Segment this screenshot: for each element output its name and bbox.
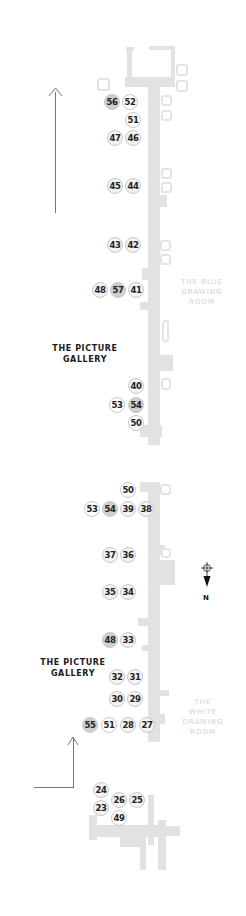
room-label-line: ROOM — [173, 727, 233, 737]
room-label-picture-gallery: THE PICTURE GALLERY — [28, 657, 118, 679]
artwork-pin[interactable]: 54 — [128, 397, 144, 413]
compass-label: N — [203, 594, 209, 602]
artwork-pin[interactable]: 24 — [93, 782, 109, 798]
room-label-line: GALLERY — [40, 354, 130, 365]
artwork-pin[interactable]: 53 — [84, 501, 100, 517]
artwork-pin[interactable]: 46 — [125, 130, 141, 146]
artwork-pin[interactable]: 41 — [128, 282, 144, 298]
room-label-line: DRAWING — [172, 287, 232, 297]
window-icon — [160, 254, 171, 265]
room-label-line: WHITE — [173, 707, 233, 717]
main-wall-top — [148, 85, 160, 445]
artwork-pin[interactable]: 40 — [128, 378, 144, 394]
artwork-pin[interactable]: 54 — [102, 501, 118, 517]
artwork-pin[interactable]: 30 — [109, 691, 125, 707]
wall — [148, 795, 154, 845]
main-wall-bottom — [148, 482, 160, 742]
room-label-line: THE — [173, 697, 233, 707]
artwork-pin[interactable]: 25 — [129, 792, 145, 808]
window-icon — [176, 80, 188, 92]
artwork-pin[interactable]: 55 — [82, 717, 98, 733]
window-icon — [161, 168, 172, 179]
artwork-pin[interactable]: 52 — [122, 94, 138, 110]
room-label-line: ROOM — [172, 297, 232, 307]
artwork-pin[interactable]: 56 — [104, 94, 120, 110]
room-label-line: THE PICTURE — [28, 657, 118, 668]
wall — [155, 714, 165, 724]
artwork-pin[interactable]: 36 — [120, 547, 136, 563]
wall — [155, 560, 175, 585]
artwork-pin[interactable]: 51 — [101, 717, 117, 733]
artwork-pin[interactable]: 47 — [107, 130, 123, 146]
north-arrow-icon — [200, 562, 214, 596]
wall — [158, 826, 180, 836]
artwork-pin[interactable]: 42 — [125, 237, 141, 253]
artwork-pin[interactable]: 43 — [107, 237, 123, 253]
wall — [138, 618, 152, 626]
room-label-line: DRAWING — [173, 717, 233, 727]
artwork-pin[interactable]: 29 — [127, 691, 143, 707]
artwork-pin[interactable]: 23 — [93, 800, 109, 816]
window-icon — [176, 64, 188, 76]
artwork-pin[interactable]: 37 — [102, 547, 118, 563]
artwork-pin[interactable]: 51 — [125, 112, 141, 128]
window-icon — [161, 548, 171, 558]
wall — [142, 645, 154, 651]
room-label-blue-drawing-room: THE BLUE DRAWING ROOM — [172, 277, 232, 307]
artwork-pin[interactable]: 33 — [120, 632, 136, 648]
wall — [126, 47, 134, 51]
room-label-line: THE PICTURE — [40, 343, 130, 354]
window-icon — [161, 110, 172, 121]
artwork-pin[interactable]: 50 — [120, 482, 136, 498]
artwork-pin[interactable]: 39 — [120, 501, 136, 517]
wall — [155, 195, 167, 207]
arrow-tail — [34, 787, 74, 788]
artwork-pin[interactable]: 57 — [110, 282, 126, 298]
window-icon — [161, 95, 172, 106]
artwork-pin[interactable]: 48 — [92, 282, 108, 298]
arrow-up-icon — [48, 87, 63, 97]
artwork-pin[interactable]: 53 — [109, 397, 125, 413]
artwork-pin[interactable]: 31 — [127, 669, 143, 685]
wall — [140, 835, 146, 870]
window-icon — [161, 182, 172, 193]
wall — [171, 46, 175, 79]
wall — [127, 47, 132, 79]
window-icon — [162, 320, 169, 342]
artwork-pin[interactable]: 38 — [138, 501, 154, 517]
wall — [120, 835, 142, 847]
room-label-picture-gallery: THE PICTURE GALLERY — [40, 343, 130, 365]
window-icon — [161, 378, 171, 390]
artwork-pin[interactable]: 50 — [128, 415, 144, 431]
artwork-pin[interactable]: 45 — [107, 178, 123, 194]
artwork-pin[interactable]: 49 — [111, 810, 127, 826]
wall — [142, 268, 154, 280]
artwork-pin[interactable]: 48 — [102, 632, 118, 648]
arrow-shaft — [73, 738, 74, 787]
arrow-shaft — [55, 92, 56, 213]
artwork-pin[interactable]: 44 — [125, 178, 141, 194]
wall — [155, 690, 169, 696]
window-icon — [160, 484, 171, 495]
artwork-pin[interactable]: 27 — [139, 717, 155, 733]
artwork-pin[interactable]: 32 — [109, 669, 125, 685]
window-icon — [160, 240, 171, 251]
wall — [140, 302, 152, 310]
artwork-pin[interactable]: 26 — [111, 792, 127, 808]
window-icon — [97, 78, 110, 91]
room-label-white-drawing-room: THE WHITE DRAWING ROOM — [173, 697, 233, 737]
artwork-pin[interactable]: 28 — [120, 717, 136, 733]
wall — [140, 425, 162, 437]
artwork-pin[interactable]: 34 — [120, 584, 136, 600]
artwork-pin[interactable]: 35 — [102, 584, 118, 600]
room-label-line: THE BLUE — [172, 277, 232, 287]
room-label-line: GALLERY — [28, 668, 118, 679]
wall — [155, 355, 173, 371]
